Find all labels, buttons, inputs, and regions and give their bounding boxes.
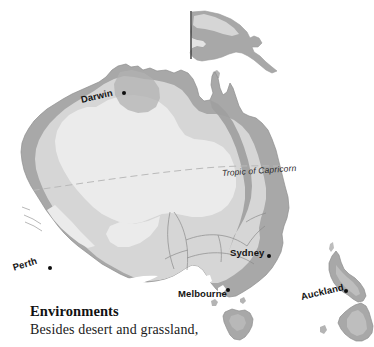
city-dot-auckland	[344, 289, 348, 293]
city-dot-sydney	[267, 254, 271, 258]
caption-body-text: Besides desert and grassland,	[30, 322, 290, 339]
caption-heading: Environments	[30, 303, 290, 320]
city-dot-perth	[48, 266, 52, 270]
city-label-melbourne: Melbourne	[178, 289, 227, 299]
city-label-sydney: Sydney	[230, 248, 264, 258]
city-dot-melbourne	[226, 288, 230, 292]
city-dot-darwin	[122, 91, 126, 95]
caption-block: Environments Besides desert and grasslan…	[30, 303, 290, 338]
map-figure: Tropic of Capricorn Darwin Perth Sydney …	[0, 0, 374, 347]
